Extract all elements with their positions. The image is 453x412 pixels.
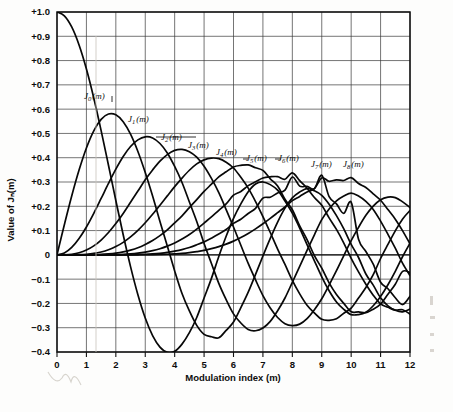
- x-tick-label: 9: [319, 359, 324, 370]
- curve-label-j6: J6(m): [278, 153, 299, 164]
- x-axis-tick-labels: 0123456789101112: [54, 359, 415, 370]
- y-tick-label: +0.6: [31, 104, 50, 115]
- curve-label-arg: (m): [196, 140, 209, 150]
- curve-label-arg: (m): [169, 132, 182, 142]
- x-tick-label: 7: [260, 359, 265, 370]
- curve-label-j7: J7(m): [311, 159, 332, 170]
- y-tick-label: +0.3: [31, 176, 50, 187]
- curve-label-arg: (m): [224, 147, 237, 157]
- y-tick-label: −0.3: [31, 322, 50, 333]
- curve-label-j0: J0(m): [84, 91, 105, 102]
- curve-label-j5: J5(m): [246, 153, 267, 164]
- y-tick-label: −0.2: [31, 298, 50, 309]
- x-tick-label: 8: [290, 359, 295, 370]
- margin-fleck-d: [430, 349, 434, 352]
- y-tick-label: +0.8: [31, 55, 50, 66]
- y-tick-label: +0.5: [31, 128, 50, 139]
- scan-pencil-mark: [48, 372, 81, 385]
- x-tick-label: 0: [54, 359, 59, 370]
- y-tick-label: +0.2: [31, 201, 50, 212]
- margin-fleck-b: [430, 316, 435, 319]
- curve-label-arg: (m): [319, 159, 332, 169]
- x-tick-label: 3: [143, 359, 148, 370]
- curve-label-j1: J1(m): [128, 114, 149, 125]
- curve-label-arg: (m): [286, 153, 299, 163]
- x-axis-title: Modulation index (m): [185, 372, 281, 383]
- curve-label-j2: J2(m): [161, 132, 182, 143]
- y-axis-tick-labels: +1.0+0.9+0.8+0.7+0.6+0.5+0.4+0.3+0.2+0.1…: [31, 6, 50, 357]
- x-tick-label: 5: [201, 359, 207, 370]
- x-tick-label: 11: [376, 359, 387, 370]
- curve-label-arg: (m): [136, 114, 149, 124]
- x-tick-label: 10: [346, 359, 357, 370]
- y-axis-title: Value of Jₙ(m): [5, 178, 16, 241]
- y-tick-label: −0.4: [31, 346, 50, 357]
- y-tick-label: +0.4: [31, 152, 50, 163]
- x-tick-label: 12: [405, 359, 416, 370]
- x-tick-label: 4: [172, 359, 178, 370]
- y-tick-label: +0.9: [31, 31, 50, 42]
- y-tick-label: +0.7: [31, 79, 50, 90]
- curve-label-j4: J4(m): [216, 147, 237, 158]
- x-tick-label: 1: [84, 359, 90, 370]
- curve-label-order: 3: [191, 144, 196, 151]
- x-tick-label: 6: [231, 359, 236, 370]
- margin-fleck-a: [430, 296, 433, 305]
- curve-label-arg: (m): [351, 159, 364, 169]
- curve-label-arg: (m): [254, 153, 267, 163]
- bessel-chart-svg: 0123456789101112 +1.0+0.9+0.8+0.7+0.6+0.…: [0, 0, 453, 412]
- y-tick-label: +1.0: [31, 6, 50, 17]
- curve-label-arg: (m): [92, 91, 105, 101]
- margin-fleck-c: [430, 333, 434, 336]
- y-tick-label: +0.1: [31, 225, 50, 236]
- curve-label-order: 1: [132, 118, 135, 125]
- figure-page: 0123456789101112 +1.0+0.9+0.8+0.7+0.6+0.…: [0, 0, 453, 412]
- y-tick-label: 0: [45, 249, 50, 260]
- y-tick-label: −0.1: [31, 274, 50, 285]
- curve-label-j3: J3(m): [188, 140, 209, 151]
- curve-label-j8: J8(m): [343, 159, 364, 170]
- x-tick-label: 2: [113, 359, 118, 370]
